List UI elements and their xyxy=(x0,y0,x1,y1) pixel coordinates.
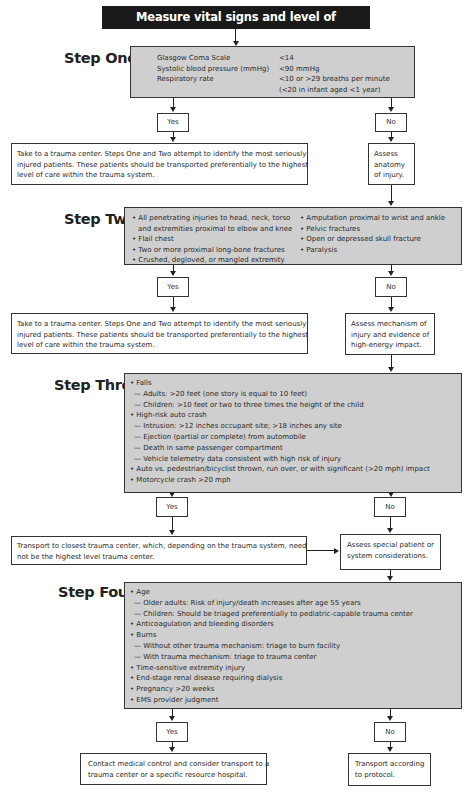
step-two-yes-action: Take to a trauma center. Steps One and T… xyxy=(11,313,308,354)
action-text-line: trauma center or a specific resource hos… xyxy=(88,770,266,781)
arrow-down-icon xyxy=(388,107,394,112)
criterion-subitem: — Adults: >20 feet (one story is equal t… xyxy=(130,389,461,400)
action-text-line: injured patients. These patients should … xyxy=(17,330,307,341)
no-label: No xyxy=(374,497,406,517)
criterion-subitem: — With trauma mechanism: triage to traum… xyxy=(130,652,461,663)
arrow-down-icon xyxy=(388,307,394,312)
yes-label: Yes xyxy=(157,113,189,132)
flowchart-title: Measure vital signs and level of conscio… xyxy=(102,6,370,29)
action-text-line: system considerations. xyxy=(347,551,440,562)
arrow-down-icon xyxy=(387,528,393,533)
criterion-subitem: — Older adults: Risk of injury/death inc… xyxy=(130,598,461,609)
criterion-subitem: — Vehicle telemetry data consistent with… xyxy=(130,454,461,465)
criterion-item: and extremities proximal to elbow and kn… xyxy=(132,224,300,235)
criterion-item: • All penetrating injuries to head, neck… xyxy=(132,213,300,224)
criterion-subitem: — Intrusion: >12 inches occupant site; >… xyxy=(130,421,461,432)
criterion-item: • Auto vs. pedestrian/bicyclist thrown, … xyxy=(130,464,461,475)
arrow-down-icon xyxy=(169,530,175,535)
criterion-subitem: — Children: Should be triaged preferenti… xyxy=(130,609,461,620)
arrow-down-icon xyxy=(169,716,175,721)
criterion-value: <10 or >29 breaths per minute xyxy=(279,74,409,85)
action-text-line: level of care within the trauma system. xyxy=(17,340,307,351)
criterion-item: • Flail chest xyxy=(132,234,300,245)
connector-line xyxy=(307,550,335,551)
arrow-down-icon xyxy=(387,576,393,581)
action-text-line: level of care within the trauma system. xyxy=(17,170,307,181)
arrow-down-icon xyxy=(169,747,175,752)
arrow-down-icon xyxy=(388,137,394,142)
arrow-down-icon xyxy=(387,747,393,752)
step-one-no-action: Assess anatomy of injury. xyxy=(368,143,415,185)
criterion-item: • Amputation proximal to wrist and ankle xyxy=(300,213,461,224)
step-one-label: Step One xyxy=(64,50,137,66)
criterion-item: • Motorcycle crash >20 mph xyxy=(130,475,461,486)
no-label: No xyxy=(375,113,407,132)
criterion-subitem: — Children: >10 feet or two to three tim… xyxy=(130,400,461,411)
criterion-item: • Pregnancy >20 weeks xyxy=(130,684,461,695)
action-text-line: Assess special patient or xyxy=(347,540,440,551)
criterion-subitem: — Without other trauma mechanism: triage… xyxy=(130,641,461,652)
step-one-criteria-box: Glasgow Coma Scale <14 Systolic blood pr… xyxy=(130,46,415,98)
criterion-item: • Anticoagulation and bleeding disorders xyxy=(130,619,461,630)
arrow-down-icon xyxy=(170,107,176,112)
step-four-yes-action: Contact medical control and consider tra… xyxy=(80,753,267,785)
action-text-line: injured patients. These patients should … xyxy=(17,160,307,171)
step-two-no-action: Assess mechanism of injury and evidence … xyxy=(345,313,435,355)
criterion-item: • High-risk auto crash xyxy=(130,410,461,421)
criterion-value: <90 mmHg xyxy=(279,64,409,75)
yes-label: Yes xyxy=(157,277,189,297)
criterion-item: • Burns xyxy=(130,630,461,641)
step-one-yes-action: Take to a trauma center. Steps One and T… xyxy=(11,143,308,185)
criterion-item: • EMS provider judgment xyxy=(130,695,461,706)
criterion-name: Systolic blood pressure (mmHg) xyxy=(157,64,279,75)
criterion-item: • End-stage renal disease requiring dial… xyxy=(130,673,461,684)
criterion-value: <14 xyxy=(279,53,409,64)
action-text-line: Transport according xyxy=(355,759,430,770)
action-text-line: injury and evidence of xyxy=(351,330,434,341)
criterion-item: • Pelvic fractures xyxy=(300,224,461,235)
action-text-line: Contact medical control and consider tra… xyxy=(88,759,266,770)
arrow-down-icon xyxy=(170,137,176,142)
criterion-subitem: — Ejection (partial or complete) from au… xyxy=(130,432,461,443)
criterion-item: • Time-sensitive extremity injury xyxy=(130,663,461,674)
criterion-item: • Crushed, degloved, or mangled extremit… xyxy=(132,255,300,266)
step-two-criteria-box: • All penetrating injuries to head, neck… xyxy=(124,207,462,265)
action-text-line: anatomy xyxy=(374,160,414,171)
step-three-criteria-box: • Falls — Adults: >20 feet (one story is… xyxy=(124,373,462,493)
action-text-line: Assess mechanism of xyxy=(351,319,434,330)
criterion-item: • Age xyxy=(130,587,461,598)
arrow-down-icon xyxy=(388,367,394,372)
criterion-item: • Two or more proximal long-bone fractur… xyxy=(132,245,300,256)
action-text-line: Transport to closest trauma center, whic… xyxy=(17,541,306,552)
criterion-name: Respiratory rate xyxy=(157,74,279,85)
connector-line xyxy=(172,517,173,531)
arrow-down-icon xyxy=(170,271,176,276)
criterion-item: • Paralysis xyxy=(300,245,461,256)
step-four-no-action: Transport according to protocol. xyxy=(348,753,431,786)
arrow-down-icon xyxy=(388,201,394,206)
arrow-down-icon xyxy=(388,271,394,276)
step-four-criteria-box: • Age — Older adults: Risk of injury/dea… xyxy=(124,582,462,709)
criterion-subitem: — Death in same passenger compartment xyxy=(130,443,461,454)
criterion-item: • Open or depressed skull fracture xyxy=(300,234,461,245)
criterion-value: (<20 in infant aged <1 year) xyxy=(279,85,409,96)
criterion-name xyxy=(157,85,279,96)
action-text-line: Take to a trauma center. Steps One and T… xyxy=(17,149,307,160)
action-text-line: of injury. xyxy=(374,170,414,181)
connector-line xyxy=(391,185,392,202)
step-three-yes-action: Transport to closest trauma center, whic… xyxy=(11,536,307,565)
yes-label: Yes xyxy=(156,722,188,742)
no-label: No xyxy=(374,722,406,742)
yes-label: Yes xyxy=(156,497,188,517)
arrow-down-icon xyxy=(170,307,176,312)
step-three-no-action: Assess special patient or system conside… xyxy=(340,534,441,570)
action-text-line: to protocol. xyxy=(355,770,430,781)
connector-line xyxy=(235,29,236,41)
criterion-name: Glasgow Coma Scale xyxy=(157,53,279,64)
action-text-line: not be the highest level trauma center. xyxy=(17,552,306,563)
action-text-line: Take to a trauma center. Steps One and T… xyxy=(17,319,307,330)
arrow-down-icon xyxy=(387,716,393,721)
criterion-item: • Falls xyxy=(130,378,461,389)
arrow-right-icon xyxy=(334,548,339,554)
no-label: No xyxy=(375,277,407,297)
